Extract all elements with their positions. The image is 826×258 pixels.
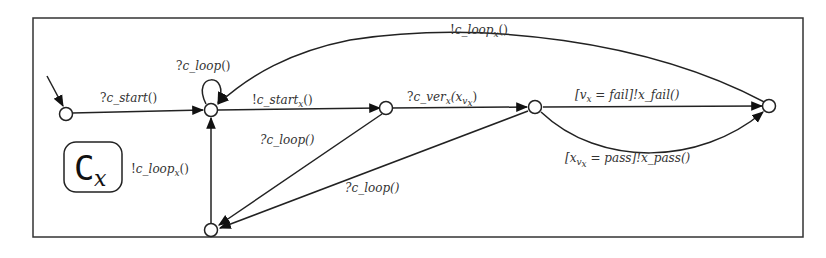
label-left-loop: !c_loopx() xyxy=(131,162,189,178)
label-c-start: ?c_start() xyxy=(100,91,157,105)
edge-top-loop xyxy=(218,33,768,104)
label-self-loop: ?c_loop() xyxy=(176,59,231,73)
state-diagram: C x ?c_start() ?c_loop() !c_startx() ?c_… xyxy=(0,0,826,258)
label-loop-a: ?c_loop() xyxy=(260,133,315,147)
badge-letter: C xyxy=(74,148,94,188)
label-top-loop: !c_loopx() xyxy=(450,23,508,39)
initial-arrow xyxy=(47,76,63,106)
badge-subscript: x xyxy=(94,166,107,191)
component-frame xyxy=(33,18,803,237)
edge-loop-b xyxy=(220,111,528,228)
label-fail: [vx = fail]!x_fail() xyxy=(575,88,680,104)
label-loop-b: ?c_loop() xyxy=(345,181,400,195)
edge-self-loop xyxy=(202,80,221,104)
state-s2 xyxy=(380,102,393,115)
edge-c-start xyxy=(72,110,203,113)
label-c-ver-x: ?c_verx(xvx) xyxy=(407,90,477,108)
edge-pass xyxy=(541,112,763,153)
state-initial xyxy=(60,108,73,121)
edge-c-ver-x xyxy=(390,107,527,108)
edge-loop-a xyxy=(219,114,382,225)
label-pass: [xvx = pass]!x_pass() xyxy=(565,151,691,169)
state-s3 xyxy=(529,101,542,114)
edge-fail xyxy=(543,106,762,107)
state-s4 xyxy=(763,100,776,113)
label-c-start-x: !c_startx() xyxy=(252,93,313,109)
state-s1 xyxy=(205,104,218,117)
state-s5 xyxy=(205,224,218,237)
